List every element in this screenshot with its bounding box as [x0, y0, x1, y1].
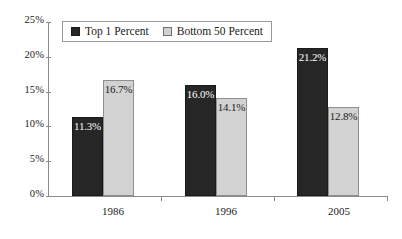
x-category-label-1986: 1986 — [78, 205, 148, 218]
chart-legend: Top 1 Percent Bottom 50 Percent — [62, 21, 272, 42]
bar-1996-bottom-50-percent: 14.1% — [216, 98, 247, 196]
bar-1986-top-1-percent: 11.3% — [72, 117, 103, 196]
y-tick-label: 15% — [24, 84, 44, 95]
y-tick-label: 20% — [24, 49, 44, 60]
legend-swatch-icon — [163, 27, 172, 36]
legend-label: Top 1 Percent — [85, 24, 149, 38]
legend-label: Bottom 50 Percent — [177, 24, 263, 38]
bar-value-label: 11.3% — [73, 120, 102, 133]
x-category-label-2005: 2005 — [304, 205, 374, 218]
x-axis-line — [48, 196, 388, 197]
x-category-label-1996: 1996 — [191, 205, 261, 218]
bar-value-label: 12.8% — [329, 110, 358, 123]
bar-1986-bottom-50-percent: 16.7% — [103, 80, 134, 196]
y-tick-label: 0% — [30, 188, 44, 199]
y-tick-label: 10% — [24, 118, 44, 129]
legend-entry-top-1-percent: Top 1 Percent — [71, 24, 149, 38]
x-tick-mark — [161, 196, 162, 201]
bar-1996-top-1-percent: 16.0% — [185, 85, 216, 196]
bar-chart: 25% 20% 15% 10% 5% 0% 11.3% 16.7% 16.0% — [0, 0, 402, 239]
bar-value-label: 14.1% — [217, 101, 246, 114]
y-tick-label: 25% — [24, 14, 44, 25]
legend-entry-bottom-50-percent: Bottom 50 Percent — [163, 24, 263, 38]
bar-2005-bottom-50-percent: 12.8% — [328, 107, 359, 196]
y-tick-label: 5% — [30, 153, 44, 164]
bar-value-label: 16.0% — [186, 88, 215, 101]
bar-2005-top-1-percent: 21.2% — [297, 48, 328, 196]
bar-value-label: 16.7% — [104, 83, 133, 96]
x-tick-mark — [274, 196, 275, 201]
bar-value-label: 21.2% — [298, 51, 327, 64]
legend-swatch-icon — [71, 27, 80, 36]
plot-area: 11.3% 16.7% 16.0% 14.1% 21.2% 12.8% — [48, 22, 388, 196]
x-tick-mark — [387, 196, 388, 201]
